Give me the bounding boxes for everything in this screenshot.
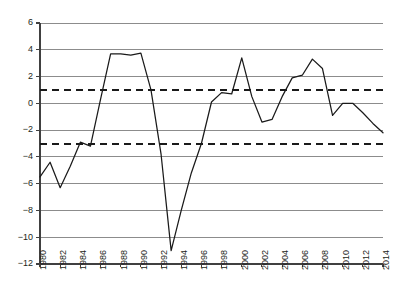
y-tick-label-4: 4 bbox=[28, 44, 33, 54]
y-tick-label--10: −10 bbox=[18, 232, 33, 242]
x-tick-label-1982: 1982 bbox=[58, 250, 68, 270]
x-tick-label-2002: 2002 bbox=[260, 250, 270, 270]
x-tick-label-1984: 1984 bbox=[78, 250, 88, 270]
x-tick-label-1994: 1994 bbox=[179, 250, 189, 270]
y-tick-label--8: −8 bbox=[23, 205, 33, 215]
y-tick-label--6: −6 bbox=[23, 178, 33, 188]
x-tick-label-1988: 1988 bbox=[119, 250, 129, 270]
x-tick-label-1998: 1998 bbox=[219, 250, 229, 270]
x-tick-label-2000: 2000 bbox=[240, 250, 250, 270]
x-tick-label-1990: 1990 bbox=[139, 250, 149, 270]
x-tick-label-2006: 2006 bbox=[300, 250, 310, 270]
y-tick-label-2: 2 bbox=[28, 71, 33, 81]
x-tick-label-2014: 2014 bbox=[381, 250, 391, 270]
y-tick-label-0: 0 bbox=[28, 98, 33, 108]
y-tick-label-6: 6 bbox=[28, 17, 33, 27]
line-chart: 6420−2−4−6−8−10−12 198019821984198619881… bbox=[0, 0, 398, 308]
x-tick-label-1980: 1980 bbox=[38, 250, 48, 270]
y-tick-label--4: −4 bbox=[23, 151, 33, 161]
y-tick-label--12: −12 bbox=[18, 258, 33, 268]
x-tick-label-1992: 1992 bbox=[159, 250, 169, 270]
chart-container: 6420−2−4−6−8−10−12 198019821984198619881… bbox=[0, 0, 398, 308]
x-tick-label-1996: 1996 bbox=[199, 250, 209, 270]
y-tick-label--2: −2 bbox=[23, 124, 33, 134]
x-tick-label-2012: 2012 bbox=[361, 250, 371, 270]
x-tick-label-2004: 2004 bbox=[280, 250, 290, 270]
caption-strip bbox=[0, 297, 398, 308]
x-tick-label-2008: 2008 bbox=[320, 250, 330, 270]
x-tick-label-1986: 1986 bbox=[98, 250, 108, 270]
x-tick-label-2010: 2010 bbox=[341, 250, 351, 270]
